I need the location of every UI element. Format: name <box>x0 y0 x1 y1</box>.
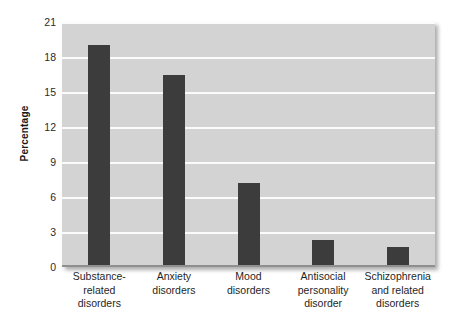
y-tick-label: 18 <box>26 51 56 63</box>
y-tick-label: 15 <box>26 86 56 98</box>
plot-area <box>62 22 435 267</box>
bar <box>88 45 110 267</box>
x-tick-label-line: and related <box>352 284 444 298</box>
x-tick-label-line: disorders <box>352 297 444 311</box>
x-tick-label-line: disorders <box>53 297 145 311</box>
bar <box>238 183 260 267</box>
bars-group <box>62 22 435 267</box>
y-tick-label: 3 <box>26 226 56 238</box>
y-tick-label: 0 <box>26 261 56 273</box>
axis-baseline <box>62 265 435 267</box>
y-tick-label: 6 <box>26 191 56 203</box>
bar <box>163 75 185 268</box>
x-axis-category-labels: Substance-relateddisordersAnxietydisorde… <box>62 270 435 317</box>
bar <box>312 240 334 267</box>
bar-chart-figure: Percentage 036912151821 Substance-relate… <box>0 0 460 317</box>
y-axis-tick-labels: 036912151821 <box>26 22 56 267</box>
x-tick-label: Schizophreniaand relateddisorders <box>352 270 444 311</box>
x-tick-label-line: Schizophrenia <box>352 270 444 284</box>
y-tick-label: 9 <box>26 156 56 168</box>
y-tick-label: 21 <box>26 16 56 28</box>
y-tick-label: 12 <box>26 121 56 133</box>
